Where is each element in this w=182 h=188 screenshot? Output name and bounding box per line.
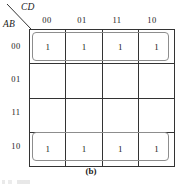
cell-value: 1 [82, 144, 87, 154]
table-row: 1 1 1 1 [30, 30, 175, 64]
figure-caption: (b) [0, 166, 182, 176]
row-header-10: 10 [4, 141, 28, 151]
cell-value: 1 [118, 42, 123, 52]
kmap-cell-r3c1[interactable]: 1 [66, 132, 102, 166]
row-header-00: 00 [4, 41, 28, 51]
kmap-cell-r1c1[interactable] [66, 64, 102, 98]
kmap-cell-r3c3[interactable]: 1 [138, 132, 174, 166]
cell-value: 1 [45, 42, 50, 52]
row-header-11: 11 [4, 107, 28, 117]
kmap-cell-r0c0[interactable]: 1 [30, 30, 66, 64]
kmap-cell-r2c2[interactable] [102, 98, 138, 132]
cell-value: 1 [82, 42, 87, 52]
kmap-cell-r1c3[interactable] [138, 64, 174, 98]
cell-value: 1 [154, 144, 159, 154]
column-header-10: 10 [134, 15, 170, 25]
kmap-cell-r3c2[interactable]: 1 [102, 132, 138, 166]
table-row: 1 1 1 1 [30, 132, 175, 166]
kmap-cell-r2c1[interactable] [66, 98, 102, 132]
kmap-grid: 1 1 1 1 1 1 1 1 [29, 29, 175, 167]
row-variable-label: AB [3, 19, 15, 29]
row-header-01: 01 [4, 74, 28, 84]
cell-value: 1 [154, 42, 159, 52]
kmap-cell-r0c2[interactable]: 1 [102, 30, 138, 64]
column-header-01: 01 [64, 15, 100, 25]
kmap-cell-r1c0[interactable] [30, 64, 66, 98]
kmap-cell-r2c3[interactable] [138, 98, 174, 132]
scan-artifact [2, 180, 48, 184]
kmap-cell-r0c3[interactable]: 1 [138, 30, 174, 64]
table-row [30, 64, 175, 98]
cell-value: 1 [118, 144, 123, 154]
column-header-00: 00 [29, 15, 65, 25]
cell-value: 1 [45, 144, 50, 154]
table-row [30, 98, 175, 132]
karnaugh-map-figure: CD AB 00 01 11 10 00 01 11 10 1 1 1 1 [0, 0, 182, 188]
column-header-11: 11 [99, 15, 135, 25]
kmap-cell-r2c0[interactable] [30, 98, 66, 132]
kmap-cell-r1c2[interactable] [102, 64, 138, 98]
kmap-cell-r0c1[interactable]: 1 [66, 30, 102, 64]
column-variable-label: CD [21, 2, 35, 12]
kmap-cell-r3c0[interactable]: 1 [30, 132, 66, 166]
